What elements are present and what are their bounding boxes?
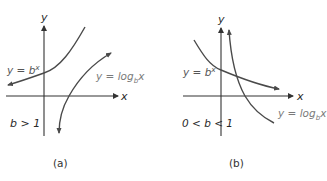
log-curve-end [245,96,274,123]
exp-label: y = bx [6,63,40,76]
exponential-log-diagram: y x y = bx y = logbx b > 1 (a) y x y = b… [0,0,327,181]
panel-b: y x y = bx y = logbx 0 < b < 1 (b) [182,13,327,169]
condition-label: 0 < b < 1 [182,117,233,129]
log-label: y = logbx [277,107,327,122]
exponential-curve [8,27,85,85]
caption-b: (b) [229,157,244,169]
caption-a: (a) [53,157,68,169]
condition-label: b > 1 [10,117,40,130]
x-axis-label: x [120,90,128,103]
log-curve-start [59,96,69,133]
y-axis-label: y [40,11,48,24]
exp-label: y = bx [182,65,216,78]
panel-a: y x y = bx y = logbx b > 1 (a) [6,11,145,169]
y-axis-label: y [217,13,225,26]
x-axis-label: x [296,90,304,103]
exponential-curve [194,40,279,89]
log-label: y = logbx [95,70,145,85]
log-curve-start [229,30,245,96]
